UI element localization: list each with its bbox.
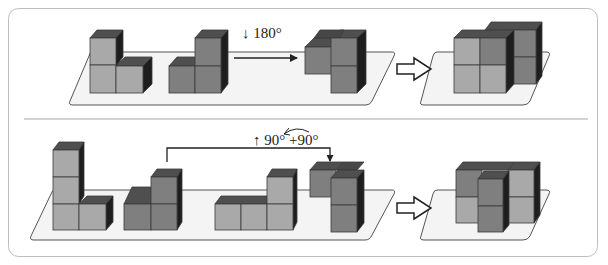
diagram-stage: ↓ 180° ↑ 90° +90°: [0, 0, 608, 265]
assembled-result-top: [454, 22, 542, 93]
rotation-label-top: ↓ 180°: [242, 26, 282, 41]
rotation-label-bottom: ↑ 90° +90°: [253, 133, 318, 148]
assembled-result-bottom: [456, 162, 540, 232]
